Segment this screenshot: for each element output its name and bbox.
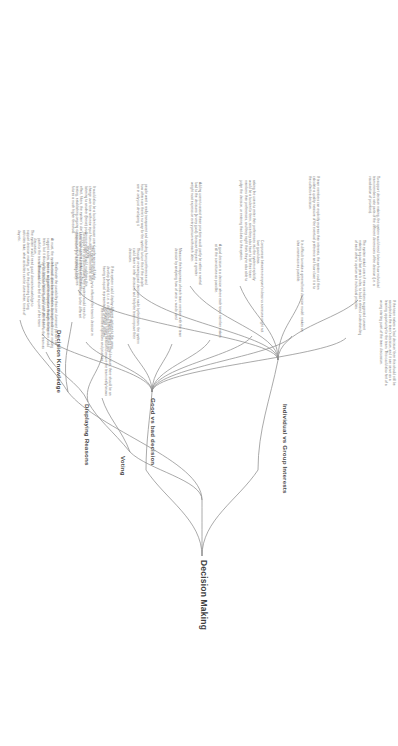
- edge-displaying-spine: [88, 402, 130, 452]
- edge-goodbad-leaf-1: [152, 338, 346, 392]
- leaf-voting-1[interactable]: Before the team makes a final decision, …: [99, 308, 112, 396]
- branch-label-displaying-reasons[interactable]: Displaying Reasons: [84, 404, 91, 466]
- mindmap-canvas: Decision Making Individual vs Group Inte…: [0, 0, 398, 746]
- leaf-individual-4[interactable]: Adding users to assist these priorities …: [189, 182, 202, 286]
- branch-label-voting[interactable]: Voting: [120, 456, 127, 476]
- leaf-goodbad-3[interactable]: Compromise between everyone's ideas vs s…: [256, 240, 264, 336]
- branch-label-good-vs-bad-decision[interactable]: Good vs bad decision: [150, 398, 157, 465]
- edge-root-to-good-bad: [146, 470, 202, 556]
- root-node-decision-making[interactable]: Decision Making: [199, 560, 208, 630]
- edge-hub-to-displaying-reasons: [130, 452, 202, 500]
- leaf-decision-knowledge-2[interactable]: To support the decision making, the syst…: [73, 232, 86, 320]
- leaf-goodbad-1[interactable]: The system asked users if new members su…: [353, 240, 366, 336]
- edge-individual-spine: [258, 360, 278, 470]
- leaf-goodbad-7[interactable]: The system should not try to influence t…: [86, 246, 94, 342]
- leaf-individual-2[interactable]: If team members can explicitly express t…: [307, 176, 320, 294]
- leaf-individual-3[interactable]: asking the users to enter their preferen…: [239, 180, 256, 284]
- leaf-goodbad-6[interactable]: Through reviewing past decisions made by…: [127, 248, 140, 344]
- edge-goodbad-leaf-7: [86, 342, 152, 392]
- leaf-displaying-reasons-1[interactable]: To alleviate the possibility that one do…: [37, 262, 58, 350]
- edge-root-to-individual: [202, 470, 258, 556]
- edge-dr-leaf-1: [46, 352, 88, 402]
- branch-label-individual-vs-group[interactable]: Individual vs Group Interests: [282, 404, 289, 494]
- edge-to-voting: [102, 398, 130, 452]
- edge-individual-leaf-1: [278, 300, 358, 360]
- leaf-goodbad-9[interactable]: If the team makes a 'bad decision' then …: [379, 300, 396, 388]
- leaf-goodbad-5[interactable]: Measure the happiness of each team membe…: [174, 248, 182, 344]
- leaf-decision-knowledge-1[interactable]: The system would need good domain knowle…: [17, 230, 34, 318]
- leaf-goodbad-4[interactable]: A good decision is a decision where each…: [214, 244, 222, 340]
- leaf-individual-1[interactable]: To support decision making, the system w…: [367, 176, 380, 294]
- leaf-goodbad-2[interactable]: It is difficult to make a general best d…: [296, 240, 304, 336]
- edge-dk-leaf-2: [65, 322, 72, 392]
